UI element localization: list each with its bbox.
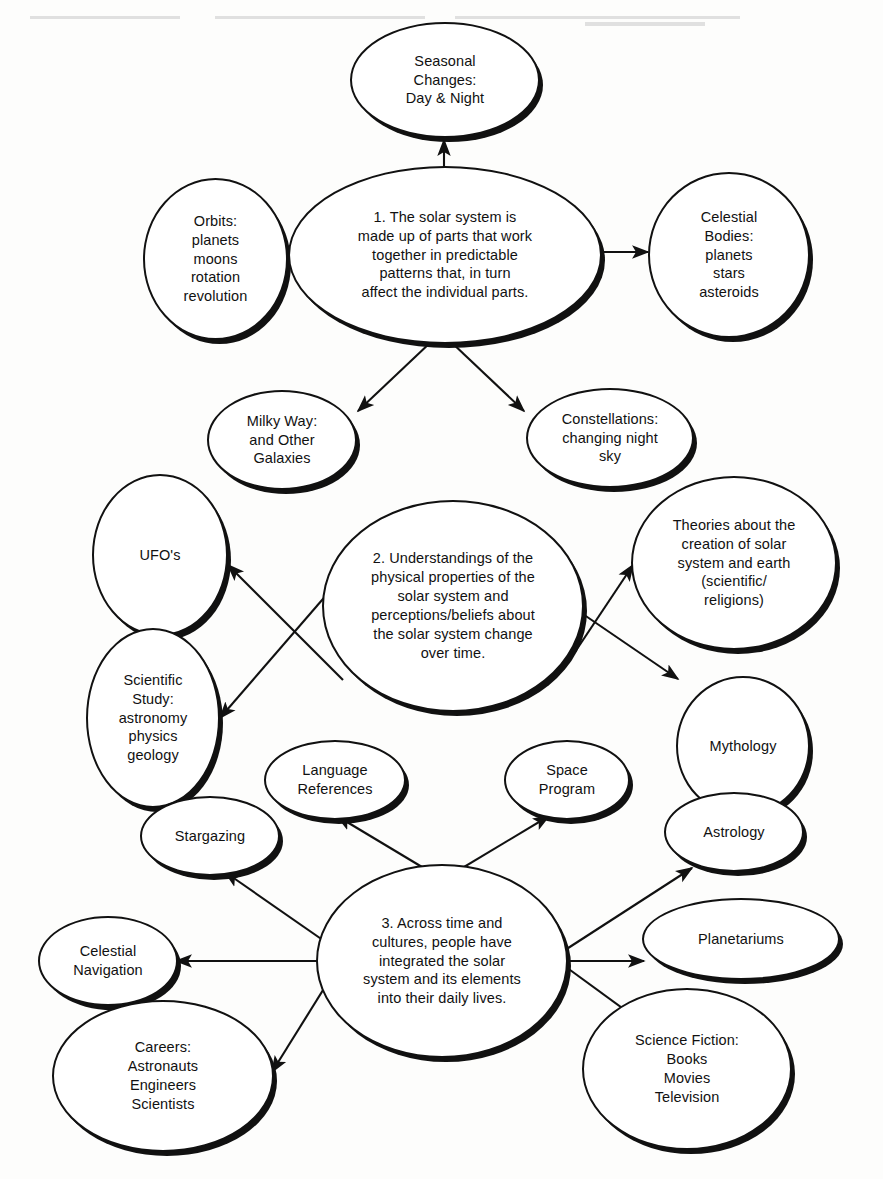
node-label: Milky Way: and Other Galaxies	[241, 412, 324, 469]
node-orbits[interactable]: Orbits: planets moons rotation revolutio…	[143, 178, 288, 340]
node-space-program[interactable]: Space Program	[504, 740, 630, 820]
scan-smudge	[455, 16, 740, 19]
node-scientific-study[interactable]: Scientific Study: astronomy physics geol…	[86, 628, 220, 808]
node-label: Planetariums	[692, 930, 790, 949]
node-science-fiction[interactable]: Science Fiction: Books Movies Television	[582, 988, 792, 1150]
node-label: Stargazing	[169, 827, 251, 846]
node-label: Constellations: changing night sky	[556, 410, 665, 467]
node-astrology[interactable]: Astrology	[664, 792, 804, 872]
node-label: Science Fiction: Books Movies Television	[629, 1031, 745, 1106]
node-label: 2. Understandings of the physical proper…	[365, 549, 541, 662]
node-label: Space Program	[533, 761, 601, 799]
node-planetariums[interactable]: Planetariums	[642, 898, 840, 980]
node-topic-2[interactable]: 2. Understandings of the physical proper…	[322, 500, 584, 712]
edge-topic1-milky-way	[358, 341, 432, 411]
node-stargazing[interactable]: Stargazing	[140, 796, 280, 876]
node-constellations[interactable]: Constellations: changing night sky	[526, 388, 694, 488]
node-label: Astrology	[697, 823, 770, 842]
node-label: UFO's	[133, 546, 186, 565]
node-ufos[interactable]: UFO's	[92, 474, 228, 636]
node-label: Language References	[291, 761, 378, 799]
node-topic-3[interactable]: 3. Across time and cultures, people have…	[316, 864, 568, 1058]
node-topic-1[interactable]: 1. The solar system is made up of parts …	[288, 166, 602, 344]
node-celestial-navigation[interactable]: Celestial Navigation	[38, 916, 178, 1006]
node-label: 3. Across time and cultures, people have…	[357, 914, 527, 1008]
node-celestial-bodies[interactable]: Celestial Bodies: planets stars asteroid…	[648, 172, 810, 338]
node-label: Celestial Bodies: planets stars asteroid…	[693, 208, 765, 302]
concept-map-canvas: Seasonal Changes: Day & Night Orbits: pl…	[0, 0, 883, 1179]
node-label: 1. The solar system is made up of parts …	[352, 208, 538, 302]
scan-smudge	[215, 16, 425, 19]
node-seasonal-changes[interactable]: Seasonal Changes: Day & Night	[350, 22, 540, 138]
node-label: Seasonal Changes: Day & Night	[400, 52, 490, 109]
node-label: Scientific Study: astronomy physics geol…	[113, 671, 194, 765]
edge-topic1-constellations	[450, 341, 524, 411]
node-milky-way[interactable]: Milky Way: and Other Galaxies	[207, 390, 357, 490]
scan-smudge	[585, 22, 705, 26]
scan-smudge	[30, 16, 180, 19]
node-theories[interactable]: Theories about the creation of solar sys…	[631, 476, 837, 650]
node-language-references[interactable]: Language References	[264, 740, 406, 820]
node-label: Theories about the creation of solar sys…	[667, 516, 802, 610]
node-label: Careers: Astronauts Engineers Scientists	[122, 1038, 204, 1113]
node-careers[interactable]: Careers: Astronauts Engineers Scientists	[52, 1000, 274, 1152]
node-label: Celestial Navigation	[67, 942, 149, 980]
node-label: Orbits: planets moons rotation revolutio…	[178, 212, 254, 306]
node-label: Mythology	[704, 737, 783, 756]
